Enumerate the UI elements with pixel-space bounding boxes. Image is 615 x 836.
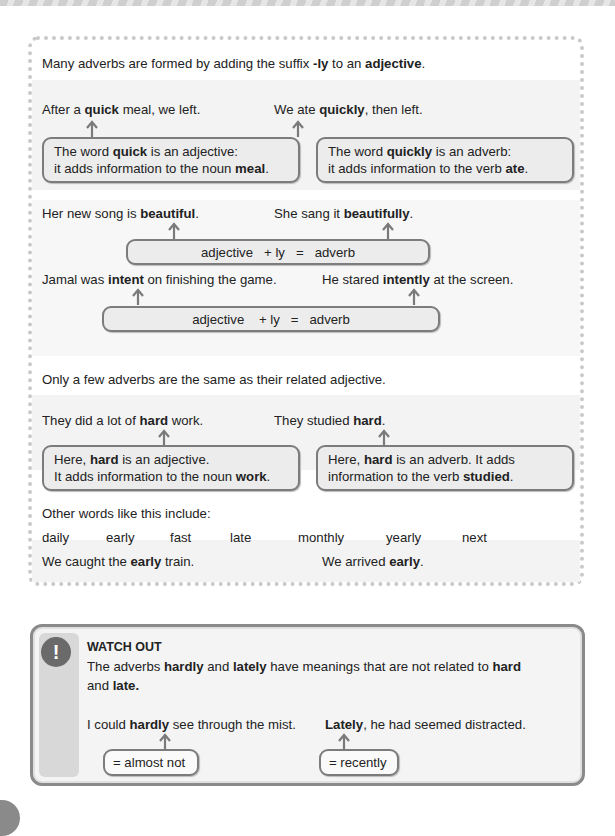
word-item: early [106, 530, 135, 546]
watch-out-panel: ! WATCH OUT The adverbs hardly and latel… [30, 624, 585, 786]
equation-box: adjective + ly = adverb [126, 239, 430, 265]
note-box-quickly: The word quickly is an adverb: it adds i… [316, 137, 574, 183]
watch-out-body: The adverbs hardly and lately have meani… [87, 657, 567, 695]
exclamation-icon: ! [41, 637, 71, 667]
sentence-beautiful: Her new song is beautiful. [42, 206, 199, 222]
sentence-early-adjective: We caught the early train. [42, 554, 194, 570]
meaning-box-lately: = recently [319, 749, 399, 776]
word-item: monthly [298, 530, 344, 546]
note-box-hard-adjective: Here, hard is an adjective. It adds info… [42, 445, 300, 491]
equation-box: adjective + ly = adverb [102, 306, 440, 332]
arrow-up-icon [86, 120, 98, 138]
note-box-quick: The word quick is an adjective: it adds … [42, 137, 300, 183]
arrow-up-icon [408, 288, 420, 306]
other-words-label: Other words like this include: [42, 506, 211, 522]
sentence-intent: Jamal was intent on finishing the game. [42, 272, 277, 288]
sentence-intently: He stared intently at the screen. [322, 272, 513, 288]
word-item: next [462, 530, 487, 546]
meaning-box-hardly: = almost not [103, 749, 199, 776]
sentence-beautifully: She sang it beautifully. [274, 206, 413, 222]
sentence-lately: Lately, he had seemed distracted. [325, 717, 526, 733]
sentence-quickly: We ate quickly, then left. [274, 102, 423, 118]
arrow-up-icon [132, 288, 144, 306]
word-item: daily [42, 530, 69, 546]
arrow-up-icon [168, 222, 180, 240]
sentence-hardly: I could hardly see through the mist. [87, 717, 296, 733]
word-list: daily early fast late monthly yearly nex… [42, 530, 562, 548]
adverbs-panel: Many adverbs are formed by adding the su… [28, 36, 584, 586]
page-corner-decoration [0, 800, 20, 836]
arrow-up-icon [382, 222, 394, 240]
same-form-heading: Only a few adverbs are the same as their… [42, 372, 386, 388]
sentence-hard-adverb: They studied hard. [274, 413, 385, 429]
sentence-early-adverb: We arrived early. [322, 554, 424, 570]
word-item: late [230, 530, 251, 546]
intro-text: Many adverbs are formed by adding the su… [42, 56, 425, 72]
word-item: fast [170, 530, 191, 546]
watch-out-title: WATCH OUT [87, 639, 162, 655]
top-decorative-strip [0, 0, 615, 6]
word-item: yearly [386, 530, 421, 546]
note-box-hard-adverb: Here, hard is an adverb. It adds informa… [316, 445, 574, 491]
arrow-up-icon [292, 120, 304, 138]
sentence-hard-adjective: They did a lot of hard work. [42, 413, 203, 429]
sentence-quick: After a quick meal, we left. [42, 102, 200, 118]
